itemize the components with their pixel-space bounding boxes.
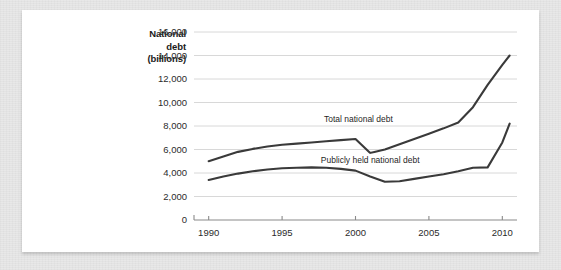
y-axis-tick-label: 10,000 [158, 97, 187, 108]
chart-svg: 02,0004,0006,0008,00010,00012,00014,0001… [22, 10, 539, 252]
x-axis-tick-label: 2005 [418, 227, 439, 238]
data-series-line [209, 56, 510, 162]
y-axis-tick-label: 2,000 [163, 191, 187, 202]
y-axis-tick-label: 4,000 [163, 167, 187, 178]
y-axis-tick-label: 8,000 [163, 120, 187, 131]
x-axis-tick-label: 1995 [272, 227, 293, 238]
series-annotation-label: Publicly held national debt [321, 155, 420, 165]
x-axis-tick-label: 2000 [345, 227, 366, 238]
y-axis-tick-label: 6,000 [163, 144, 187, 155]
x-axis-tick-label: 1990 [198, 227, 219, 238]
y-axis-tick-label: 12,000 [158, 73, 187, 84]
x-axis-tick-label: 2010 [492, 227, 513, 238]
y-axis-tick-label: 0 [182, 214, 187, 225]
series-annotation-label: Total national debt [324, 114, 394, 124]
line-chart: National debt (billions) 02,0004,0006,00… [22, 10, 539, 252]
figure-card: National debt (billions) 02,0004,0006,00… [22, 10, 539, 252]
y-axis-tick-label: 14,000 [158, 50, 187, 61]
y-axis-tick-label: 16,000 [158, 26, 187, 37]
